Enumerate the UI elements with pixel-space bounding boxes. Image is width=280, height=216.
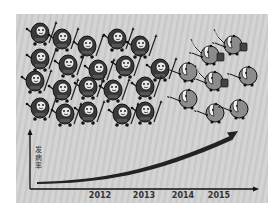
x-tick-2014: 2014 — [172, 191, 194, 200]
trend-arrow — [37, 131, 238, 184]
x-tick-2013: 2013 — [133, 191, 155, 200]
light-army — [167, 29, 257, 124]
dark-army — [21, 21, 178, 127]
y-axis-label: 发病率 — [33, 146, 43, 170]
x-tick-2015: 2015 — [208, 191, 230, 200]
x-tick-2012: 2012 — [89, 191, 111, 200]
illustration-art — [0, 0, 280, 216]
